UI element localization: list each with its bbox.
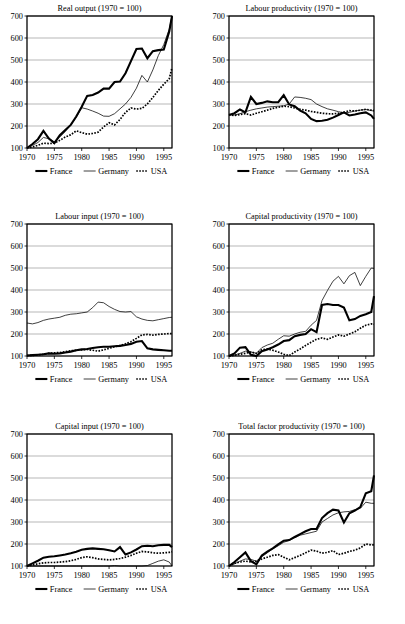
- chart-panel-labour-productivity: Labour productivity (1970 = 100)10020030…: [202, 0, 405, 208]
- x-tick-label: 1980: [275, 571, 292, 580]
- chart-title: Labour input (1970 = 100): [55, 212, 144, 221]
- y-tick-label: 700: [11, 430, 23, 439]
- y-tick-label: 100: [213, 352, 225, 361]
- y-tick-label: 100: [11, 562, 23, 571]
- y-tick-label: 300: [11, 308, 23, 317]
- y-tick-label: 100: [213, 562, 225, 571]
- legend-label-germany: Germany: [98, 375, 130, 384]
- y-tick-label: 400: [213, 496, 225, 505]
- y-tick-label: 300: [11, 100, 23, 109]
- x-tick-label: 1985: [303, 571, 320, 580]
- x-tick-label: 1975: [248, 361, 265, 370]
- x-tick-label: 1990: [330, 361, 347, 370]
- y-tick-label: 600: [11, 34, 23, 43]
- y-tick-label: 400: [11, 286, 23, 295]
- legend-label-france: France: [50, 585, 73, 594]
- legend-label-usa: USA: [151, 585, 168, 594]
- series-line-usa: [27, 68, 172, 148]
- chart-panel-real-output: Real output (1970 = 100)1002003004005006…: [0, 0, 202, 208]
- x-tick-label: 1975: [248, 153, 265, 162]
- y-tick-label: 700: [11, 220, 23, 229]
- legend-label-usa: USA: [151, 375, 168, 384]
- legend-label-usa: USA: [353, 585, 370, 594]
- x-tick-label: 1995: [155, 361, 172, 370]
- chart-title: Capital productivity (1970 = 100): [245, 212, 357, 221]
- x-tick-label: 1970: [221, 361, 238, 370]
- y-tick-label: 600: [213, 242, 225, 251]
- chart-title: Capital input (1970 = 100): [55, 422, 144, 431]
- x-tick-label: 1985: [101, 153, 118, 162]
- x-tick-label: 1990: [128, 571, 145, 580]
- y-tick-label: 700: [11, 12, 23, 21]
- x-tick-label: 1995: [155, 571, 172, 580]
- legend-label-france: France: [252, 375, 275, 384]
- x-tick-label: 1980: [275, 361, 292, 370]
- chart-title: Real output (1970 = 100): [58, 4, 142, 13]
- y-tick-label: 100: [11, 144, 23, 153]
- x-tick-label: 1985: [101, 571, 118, 580]
- y-tick-label: 100: [213, 144, 225, 153]
- series-line-usa: [27, 334, 172, 356]
- x-tick-label: 1995: [357, 571, 374, 580]
- x-tick-label: 1975: [248, 571, 265, 580]
- legend-label-germany: Germany: [300, 167, 332, 176]
- x-tick-label: 1985: [303, 153, 320, 162]
- chart-panel-capital-input: Capital input (1970 = 100)10020030040050…: [0, 418, 202, 624]
- x-tick-label: 1995: [357, 361, 374, 370]
- y-tick-label: 100: [11, 352, 23, 361]
- x-tick-label: 1970: [19, 153, 36, 162]
- legend-label-france: France: [252, 167, 275, 176]
- chart-panel-capital-productivity: Capital productivity (1970 = 100)1002003…: [202, 208, 405, 418]
- x-tick-label: 1980: [73, 361, 90, 370]
- y-tick-label: 500: [213, 264, 225, 273]
- y-tick-label: 500: [11, 264, 23, 273]
- legend-label-germany: Germany: [300, 375, 332, 384]
- y-tick-label: 600: [213, 452, 225, 461]
- legend-label-germany: Germany: [98, 585, 130, 594]
- legend-label-france: France: [50, 375, 73, 384]
- y-tick-label: 200: [213, 330, 225, 339]
- legend-label-usa: USA: [353, 167, 370, 176]
- chart-panel-total-factor-productivity: Total factor productivity (1970 = 100)10…: [202, 418, 405, 624]
- y-tick-label: 300: [11, 518, 23, 527]
- y-tick-label: 200: [11, 122, 23, 131]
- x-tick-label: 1975: [46, 571, 63, 580]
- y-tick-label: 200: [213, 122, 225, 131]
- x-tick-label: 1975: [46, 361, 63, 370]
- series-line-usa: [229, 544, 374, 566]
- y-tick-label: 400: [11, 496, 23, 505]
- y-tick-label: 700: [213, 220, 225, 229]
- x-tick-label: 1980: [275, 153, 292, 162]
- y-tick-label: 300: [213, 518, 225, 527]
- y-tick-label: 400: [213, 286, 225, 295]
- y-tick-label: 500: [11, 474, 23, 483]
- y-tick-label: 300: [213, 100, 225, 109]
- series-line-germany: [27, 302, 172, 324]
- x-tick-label: 1990: [330, 571, 347, 580]
- y-tick-label: 200: [11, 330, 23, 339]
- x-tick-label: 1980: [73, 571, 90, 580]
- y-tick-label: 500: [213, 56, 225, 65]
- y-tick-label: 200: [11, 540, 23, 549]
- x-tick-label: 1995: [155, 153, 172, 162]
- legend-label-usa: USA: [151, 167, 168, 176]
- legend-label-usa: USA: [353, 375, 370, 384]
- y-tick-label: 600: [11, 242, 23, 251]
- series-line-usa: [27, 551, 172, 566]
- x-tick-label: 1985: [303, 361, 320, 370]
- legend-label-germany: Germany: [98, 167, 130, 176]
- legend-label-france: France: [50, 167, 73, 176]
- legend-label-france: France: [252, 585, 275, 594]
- chart-panel-labour-input: Labour input (1970 = 100)100200300400500…: [0, 208, 202, 418]
- y-tick-label: 300: [213, 308, 225, 317]
- series-line-france: [229, 95, 374, 121]
- y-tick-label: 600: [213, 34, 225, 43]
- y-tick-label: 200: [213, 540, 225, 549]
- y-tick-label: 400: [213, 78, 225, 87]
- x-tick-label: 1970: [221, 571, 238, 580]
- x-tick-label: 1970: [19, 571, 36, 580]
- y-tick-label: 500: [11, 56, 23, 65]
- chart-title: Labour productivity (1970 = 100): [245, 4, 357, 13]
- x-tick-label: 1980: [73, 153, 90, 162]
- y-tick-label: 600: [11, 452, 23, 461]
